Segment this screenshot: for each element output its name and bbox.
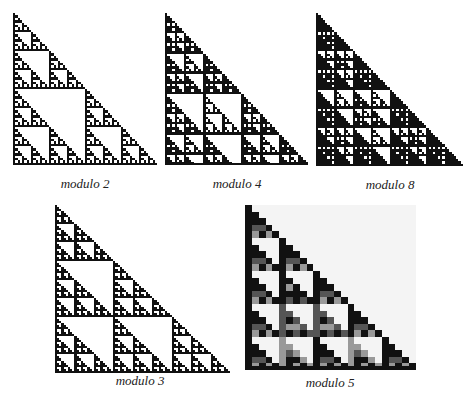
figure-modulo-3	[55, 205, 230, 373]
caption-modulo-2: modulo 2	[35, 176, 135, 192]
sierpinski-pattern-modulo-5	[245, 205, 416, 370]
sierpinski-pattern-modulo-8	[316, 13, 463, 166]
sierpinski-pattern-modulo-4	[165, 13, 308, 165]
figure-modulo-4	[165, 13, 308, 165]
figure-modulo-2	[13, 13, 157, 165]
caption-modulo-5: modulo 5	[280, 375, 380, 391]
sierpinski-pattern-modulo-3	[55, 205, 230, 373]
sierpinski-pattern-modulo-2	[13, 13, 157, 165]
caption-modulo-4: modulo 4	[187, 176, 287, 192]
figure-modulo-8	[316, 13, 463, 166]
caption-modulo-3: modulo 3	[90, 373, 190, 389]
caption-modulo-8: modulo 8	[340, 177, 440, 193]
figure-modulo-5	[245, 205, 416, 370]
